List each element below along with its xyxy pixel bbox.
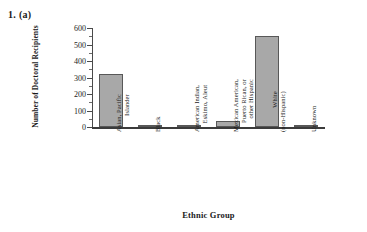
y-tick-mark xyxy=(87,61,92,62)
y-tick-mark xyxy=(87,45,92,46)
y-minor-tick xyxy=(89,69,92,70)
x-category-label-line: Eskimo, Aleut xyxy=(201,85,209,132)
y-minor-tick xyxy=(89,86,92,87)
y-tick-mark xyxy=(87,127,92,128)
x-category-label: Asian, PacificIslander xyxy=(115,94,130,132)
y-tick-label: 500 xyxy=(74,40,86,49)
x-axis-title: Ethnic Group xyxy=(92,210,325,220)
y-axis-line xyxy=(92,28,93,127)
x-category-label-line: Unknown xyxy=(310,106,318,132)
y-minor-tick xyxy=(89,119,92,120)
x-category-label-line: American Indian, xyxy=(193,85,201,132)
y-tick-label: 100 xyxy=(74,106,86,115)
y-tick-label: 200 xyxy=(74,90,86,99)
y-tick-mark xyxy=(87,78,92,79)
figure-container: 1. (a) Number of Doctoral Recipients 010… xyxy=(0,0,367,232)
y-minor-tick xyxy=(89,53,92,54)
x-category-label-line: Asian, Pacific xyxy=(115,94,123,132)
figure-number-label: 1. (a) xyxy=(8,9,31,20)
x-category-label-line: other Hispanic xyxy=(247,79,255,132)
y-minor-tick xyxy=(89,36,92,37)
x-category-label-line: Islander xyxy=(123,94,131,132)
x-category-label-line: Puerto Rican, or xyxy=(239,79,247,132)
y-tick-label: 400 xyxy=(74,57,86,66)
y-tick-mark xyxy=(87,94,92,95)
x-category-label: Black xyxy=(154,116,162,132)
x-category-label-line: White xyxy=(271,91,279,132)
y-tick-label: 600 xyxy=(74,24,86,33)
x-category-label: White(non-Hispanic) xyxy=(271,91,286,132)
y-axis-title: Number of Doctoral Recipients xyxy=(31,17,40,137)
y-tick-mark xyxy=(87,111,92,112)
x-category-label-line: Mexican American, xyxy=(232,79,240,132)
x-category-label: Mexican American,Puerto Rican, orother H… xyxy=(232,79,255,132)
x-category-label: Unknown xyxy=(310,106,318,132)
y-tick-label: 300 xyxy=(74,73,86,82)
x-category-label: American Indian,Eskimo, Aleut xyxy=(193,85,208,132)
y-minor-tick xyxy=(89,102,92,103)
x-category-label-line: (non-Hispanic) xyxy=(278,91,286,132)
y-tick-mark xyxy=(87,28,92,29)
y-tick-label: 0 xyxy=(82,123,86,132)
x-category-label-line: Black xyxy=(154,116,162,132)
